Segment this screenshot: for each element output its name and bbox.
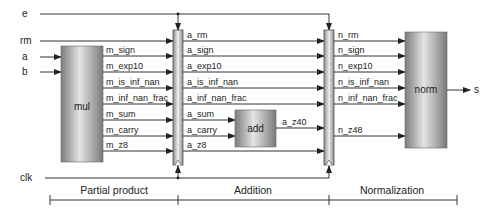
- signal-m-carry: m_carry: [106, 125, 139, 135]
- add-label: add: [247, 123, 264, 134]
- add-block: add: [235, 110, 276, 147]
- signal-m-exp10: m_exp10: [106, 61, 143, 71]
- signal-m-inf-nan-frac: m_inf_nan_frac: [106, 93, 169, 103]
- e-signal: e: [22, 8, 329, 30]
- signal-a-z40: a_z40: [282, 117, 307, 127]
- signal-m-sign: m_sign: [106, 45, 135, 55]
- signal-a-z8: a_z8: [187, 140, 207, 150]
- mul-block: mul: [61, 46, 103, 162]
- norm-label: norm: [415, 84, 438, 95]
- signal-n-inf-nan-frac: n_inf_nan_frac: [338, 93, 398, 103]
- mul-outputs: m_sign m_exp10 m_is_inf_nan m_inf_nan_fr…: [103, 45, 173, 151]
- input-a-label: a: [22, 51, 28, 62]
- input-e-label: e: [22, 8, 28, 19]
- signal-n-sign: n_sign: [338, 45, 365, 55]
- pipeline-register-2: [324, 30, 334, 165]
- signal-a-carry: a_carry: [187, 125, 218, 135]
- signal-a-exp10: a_exp10: [187, 61, 222, 71]
- signal-m-is-inf-nan: m_is_inf_nan: [106, 77, 160, 87]
- signal-m-sum: m_sum: [106, 109, 136, 119]
- pipeline-diagram: e rm a b mul m_sign m_exp10 m_is_inf_nan…: [0, 0, 489, 218]
- signal-n-is-inf-nan: n_is_inf_nan: [338, 77, 389, 87]
- signal-m-z8: m_z8: [106, 140, 128, 150]
- signal-n-z48: n_z48: [338, 125, 363, 135]
- input-b-label: b: [22, 66, 28, 77]
- signal-a-inf-nan-frac: a_inf_nan_frac: [187, 93, 247, 103]
- signal-n-exp10: n_exp10: [338, 61, 373, 71]
- rm-signal: rm: [20, 35, 173, 46]
- output-s-label: s: [474, 84, 479, 95]
- signal-a-rm: a_rm: [187, 30, 208, 40]
- stage-addition: Addition: [234, 184, 272, 196]
- clk-signal: clk: [20, 166, 329, 183]
- norm-block: norm: [405, 32, 447, 148]
- signal-a-sum: a_sum: [187, 109, 214, 119]
- input-clk-label: clk: [20, 172, 33, 183]
- pipeline-register-1: [173, 30, 183, 165]
- norm-stage-signals: n_rm n_sign n_exp10 n_is_inf_nan n_inf_n…: [334, 30, 405, 136]
- mul-label: mul: [74, 101, 90, 112]
- signal-a-is-inf-nan: a_is_inf_nan: [187, 77, 238, 87]
- signal-a-sign: a_sign: [187, 45, 214, 55]
- stage-normalization: Normalization: [360, 184, 424, 196]
- stage-partial-product: Partial product: [80, 184, 148, 196]
- signal-n-rm: n_rm: [338, 30, 359, 40]
- input-rm-label: rm: [20, 35, 32, 46]
- stage-timeline: Partial product Addition Normalization: [50, 184, 457, 205]
